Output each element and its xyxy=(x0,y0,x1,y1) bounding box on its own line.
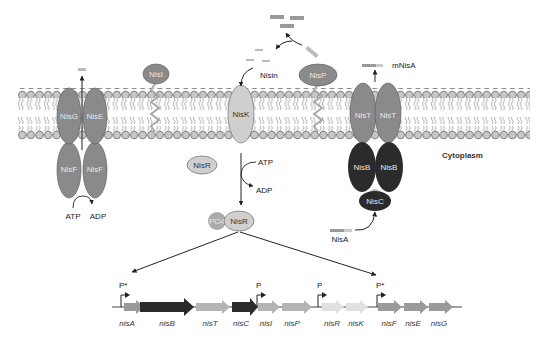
atp-hydrolysis-arrow xyxy=(73,196,92,208)
protein-label: NisC xyxy=(366,197,384,206)
mnisa-icon xyxy=(362,64,376,67)
protein-label: NisK xyxy=(233,110,251,119)
protein-label: NisG xyxy=(60,112,78,121)
gene-label: nisB xyxy=(159,319,175,328)
protein-label: NisR xyxy=(193,161,211,170)
phosphate-label: PO4 xyxy=(209,217,226,226)
nisin-pathway-diagram: NisG NisE NisF NisF ATP ADP NisI NisK Ni… xyxy=(0,0,540,343)
gene-label: nisG xyxy=(431,319,447,328)
nisFEG-transporter: NisG NisE NisF NisF ATP ADP xyxy=(57,68,107,221)
gene-label: nisT xyxy=(202,319,218,328)
nisin-label: Nisin xyxy=(260,71,278,80)
protein-label: NisB xyxy=(381,163,398,172)
protein-label: NisT xyxy=(355,111,372,120)
gene-label: nisI xyxy=(260,319,273,328)
gene-label: nisR xyxy=(324,319,340,328)
leader-peptide-icon xyxy=(280,24,294,28)
adp-label: ADP xyxy=(90,212,106,221)
protein-label: NisB xyxy=(354,163,371,172)
gene-label: nisF xyxy=(381,319,397,328)
svg-text:P: P xyxy=(317,281,322,290)
protein-label: NisE xyxy=(87,112,104,121)
nisin-fragment-icon xyxy=(255,49,263,51)
nis-operon: nisA nisB nisT nisC nisI nisP nisR nisK … xyxy=(112,281,462,328)
gene-label: nisK xyxy=(348,319,364,328)
svg-text:P*: P* xyxy=(376,281,384,290)
atp-label: ATP xyxy=(66,212,81,221)
leader-peptide-icon xyxy=(270,15,284,19)
protein-label: NisI xyxy=(149,70,163,79)
cytoplasm-label: Cytoplasm xyxy=(442,151,483,160)
nisa-icon xyxy=(330,229,344,232)
protein-label: NisT xyxy=(380,111,397,120)
nisR-signaling: NisR ATP ADP PO4 NisR xyxy=(132,153,376,275)
nisP-protein: NisP xyxy=(270,15,337,132)
protein-label: NisR xyxy=(230,217,248,226)
protein-label: NisF xyxy=(61,165,78,174)
protein-label: NisP xyxy=(310,71,327,80)
nisin-fragment-icon xyxy=(78,68,86,71)
protein-label: NisF xyxy=(87,165,104,174)
prenisin-icon xyxy=(305,46,318,58)
gene-label: nisA xyxy=(119,319,135,328)
gene-label: nisE xyxy=(405,319,421,328)
gene-label: nisC xyxy=(233,319,249,328)
mnisa-label: mNisA xyxy=(392,61,416,70)
nisin-fragment-icon xyxy=(246,59,254,61)
nisa-label: NisA xyxy=(332,235,350,244)
svg-text:P: P xyxy=(256,281,261,290)
gene-label: nisP xyxy=(284,319,300,328)
svg-text:P*: P* xyxy=(119,281,127,290)
leader-peptide-icon xyxy=(290,16,304,20)
nisin-fragment-icon xyxy=(262,60,270,62)
atp-label: ATP xyxy=(258,158,273,167)
adp-label: ADP xyxy=(256,186,272,195)
